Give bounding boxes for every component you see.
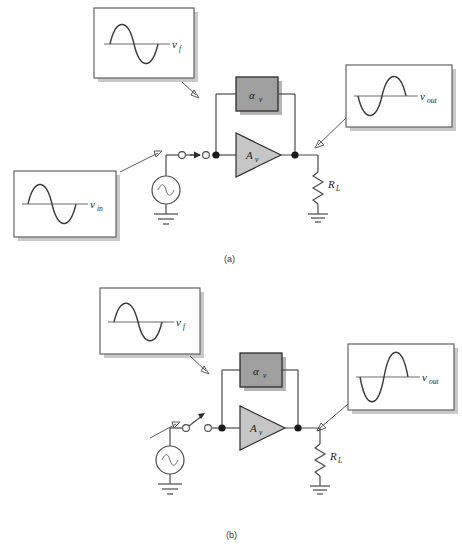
ground-symbol-source-a xyxy=(154,214,178,224)
load-sublabel-b: L xyxy=(337,456,342,465)
waveform-box-vin-a: v in xyxy=(14,171,120,241)
node-amp-output-b xyxy=(294,424,301,431)
ground-symbol-source-b xyxy=(158,484,182,494)
pointer-vout-b xyxy=(317,404,348,431)
pointer-vout-a xyxy=(315,118,346,148)
panel-caption-b: (b) xyxy=(226,530,237,540)
panel-caption-a: (a) xyxy=(224,254,235,264)
ac-source-b xyxy=(156,428,184,494)
waveform-box-vout-b: v out xyxy=(348,344,458,414)
amplifier-b: A v xyxy=(240,406,285,450)
amplifier-a: A v xyxy=(236,133,281,177)
waveform-label-vout-b: v xyxy=(422,371,427,383)
attenuator-block-b: α v xyxy=(240,353,286,391)
waveform-label-vout-a: v xyxy=(420,90,425,102)
attenuator-label-a: α xyxy=(249,89,255,101)
circuit-diagram-svg: v f v out xyxy=(0,0,462,558)
node-amp-input-a xyxy=(212,151,219,158)
waveform-sublabel-vout-b: out xyxy=(429,377,440,386)
load-resistor-b: R L xyxy=(310,428,342,494)
panel-b: v f v out xyxy=(100,288,458,540)
waveform-label-vf-a: v xyxy=(172,38,177,50)
ac-source-a xyxy=(152,155,180,224)
amplifier-label-b: A xyxy=(249,422,257,434)
waveform-box-vf-a: v f xyxy=(94,8,198,82)
switch-terminal-left-b xyxy=(183,425,190,432)
figure-canvas: v f v out xyxy=(0,0,462,558)
load-label-b: R xyxy=(329,450,337,462)
switch-terminal-right-a xyxy=(203,152,210,159)
switch-terminal-left-a xyxy=(179,152,186,159)
waveform-label-vf-b: v xyxy=(176,316,181,328)
load-label-a: R xyxy=(327,178,335,190)
pointer-source-b xyxy=(150,422,180,438)
switch-blade-arrow-a xyxy=(194,152,201,159)
switch-terminal-right-b xyxy=(205,425,212,432)
amplifier-label-a: A xyxy=(245,149,253,161)
waveform-sublabel-vout-a: out xyxy=(427,96,438,105)
ground-symbol-load-a xyxy=(308,214,328,222)
attenuator-block-a: α v xyxy=(236,77,282,115)
pointer-vf-b xyxy=(190,356,209,374)
load-sublabel-a: L xyxy=(335,184,340,193)
switch-open-b[interactable] xyxy=(183,413,212,431)
node-amp-output-a xyxy=(291,151,298,158)
load-resistor-a: R L xyxy=(308,155,340,222)
pointer-vin-a xyxy=(120,151,162,172)
waveform-sublabel-vin-a: in xyxy=(97,204,103,213)
ground-symbol-load-b xyxy=(310,486,330,494)
node-amp-input-b xyxy=(218,424,225,431)
waveform-box-vout-a: v out xyxy=(346,65,456,131)
waveform-box-vf-b: v f xyxy=(100,288,204,358)
attenuator-label-b: α xyxy=(253,365,259,377)
waveform-label-vin-a: v xyxy=(90,198,95,210)
pointer-vf-a xyxy=(182,82,199,98)
panel-a: v f v out xyxy=(14,8,456,264)
switch-closed-a[interactable] xyxy=(179,152,210,159)
